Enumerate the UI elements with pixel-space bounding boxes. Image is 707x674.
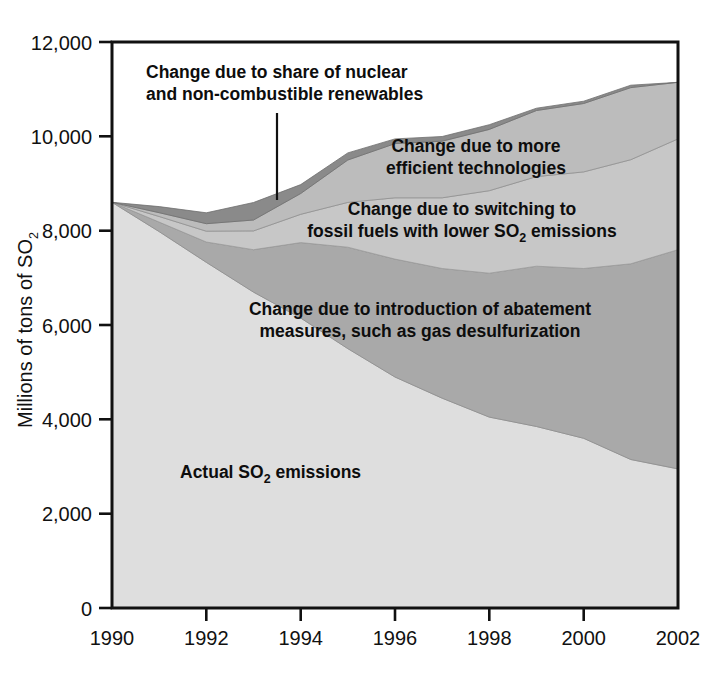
- annotation-abatement-line2: measures, such as gas desulfurization: [260, 321, 581, 341]
- y-axis-ticks: [99, 42, 112, 608]
- y-tick-label-4000: 4,000: [42, 409, 92, 431]
- annotation-efficient-line1: Change due to more: [391, 136, 560, 156]
- y-axis-tick-labels: 0 2,000 4,000 6,000 8,000 10,000 12,000: [31, 32, 92, 620]
- x-tick-label-1990: 1990: [90, 627, 135, 649]
- y-axis-title-main: Millions of tons of SO: [14, 239, 36, 428]
- x-tick-label-2000: 2000: [561, 627, 606, 649]
- x-axis-tick-labels: 1990 1992 1994 1996 1998 2000 2002: [90, 627, 701, 649]
- y-tick-label-8000: 8,000: [42, 220, 92, 242]
- y-tick-label-6000: 6,000: [42, 315, 92, 337]
- annotation-switching-line2-c: emissions: [526, 221, 617, 241]
- annotation-switching-line2-a: fossil fuels with lower SO: [307, 221, 519, 241]
- x-tick-label-1992: 1992: [184, 627, 229, 649]
- y-tick-label-12000: 12,000: [31, 32, 92, 54]
- annotation-efficient-line2: efficient technologies: [386, 158, 566, 178]
- y-tick-label-2000: 2,000: [42, 503, 92, 525]
- annotation-nuclear-line2: and non-combustible renewables: [146, 84, 423, 104]
- x-tick-label-1994: 1994: [278, 627, 323, 649]
- annotation-actual-main: Actual SO: [180, 462, 264, 482]
- y-tick-label-0: 0: [81, 598, 92, 620]
- x-axis-ticks: [206, 608, 583, 621]
- svg-text:Millions of tons of SO2: Millions of tons of SO2: [14, 232, 41, 428]
- x-tick-label-1998: 1998: [467, 627, 512, 649]
- so2-stacked-area-chart: 0 2,000 4,000 6,000 8,000 10,000 12,000 …: [0, 0, 707, 674]
- chart-figure: 0 2,000 4,000 6,000 8,000 10,000 12,000 …: [0, 0, 707, 674]
- annotation-switching-line2-subscript: 2: [519, 231, 526, 245]
- annotation-nuclear-line1: Change due to share of nuclear: [146, 62, 408, 82]
- annotation-abatement-line1: Change due to introduction of abatement: [249, 299, 591, 319]
- x-tick-label-2002: 2002: [656, 627, 701, 649]
- y-axis-title: Millions of tons of SO2: [14, 232, 41, 428]
- x-tick-label-1996: 1996: [373, 627, 418, 649]
- annotation-actual-tail: emissions: [271, 462, 362, 482]
- annotation-actual-subscript: 2: [264, 472, 271, 486]
- y-axis-title-subscript: 2: [27, 232, 41, 239]
- annotation-switching-line1: Change due to switching to: [348, 199, 576, 219]
- annotation-fuel-switching: Change due to switching to fossil fuels …: [307, 199, 617, 245]
- y-tick-label-10000: 10,000: [31, 126, 92, 148]
